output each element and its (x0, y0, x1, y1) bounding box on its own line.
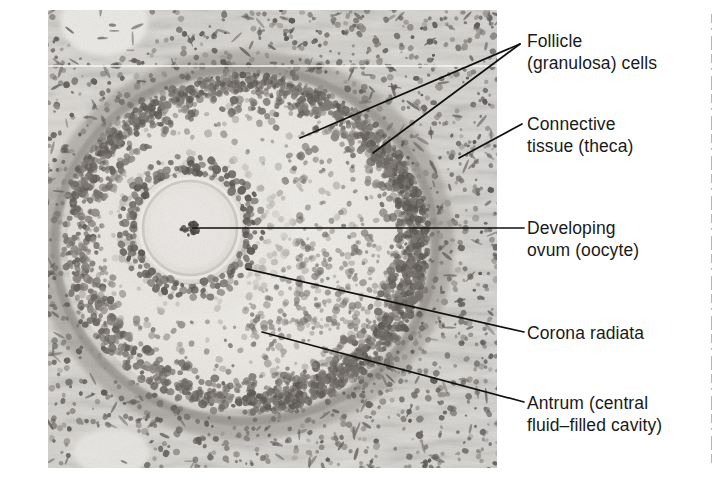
label-line-2: tissue (theca) (527, 135, 633, 157)
micrograph-svg (48, 10, 497, 468)
corona-radiata-label: Corona radiata (527, 322, 644, 344)
label-line-1: Connective (527, 113, 633, 135)
label-line-1: Follicle (527, 30, 657, 52)
developing-ovum-label: Developing ovum (oocyte) (527, 217, 639, 261)
micrograph-image (48, 10, 497, 468)
follicle-granulosa-cells-label: Follicle (granulosa) cells (527, 30, 657, 74)
label-line-1: Antrum (central (527, 392, 662, 414)
antrum-label: Antrum (central fluid–filled cavity) (527, 392, 662, 436)
label-line-1: Developing (527, 217, 639, 239)
label-line-2: (granulosa) cells (527, 52, 657, 74)
connective-tissue-label: Connective tissue (theca) (527, 113, 633, 157)
label-line-1: Corona radiata (527, 322, 644, 344)
label-line-2: ovum (oocyte) (527, 239, 639, 261)
figure-ovarian-follicle: Follicle (granulosa) cells Connective ti… (0, 0, 717, 493)
label-line-2: fluid–filled cavity) (527, 414, 662, 436)
page-edge-divider (711, 14, 712, 466)
